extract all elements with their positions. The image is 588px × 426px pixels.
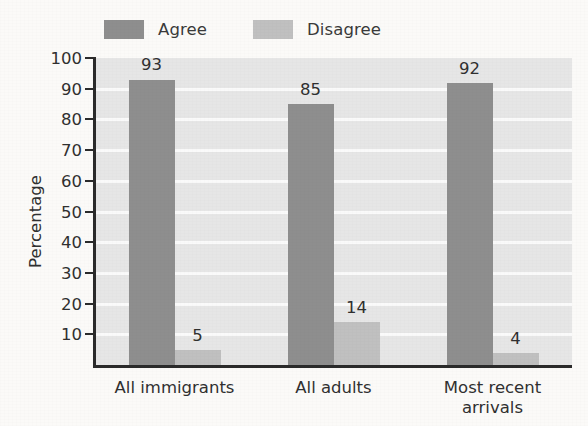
y-axis-tick — [85, 272, 94, 274]
y-axis-title: Percentage — [26, 167, 45, 277]
legend-label-disagree: Disagree — [307, 20, 381, 39]
legend-label-agree: Agree — [158, 20, 207, 39]
bar-value-label: 85 — [300, 80, 321, 99]
y-axis-tick-label: 30 — [42, 263, 82, 282]
bar-agree-0 — [129, 80, 175, 366]
bar-value-label: 92 — [459, 59, 480, 78]
y-axis-tick-label: 50 — [42, 202, 82, 221]
y-axis-tick-labels: 102030405060708090100 — [38, 0, 82, 426]
plot-area — [95, 58, 572, 365]
x-axis-category-label: All adults — [295, 378, 371, 398]
chart-legend: Agree Disagree — [104, 16, 381, 42]
bar-value-label: 14 — [346, 298, 367, 317]
y-axis-tick — [85, 57, 94, 59]
bar-disagree-0 — [175, 350, 221, 365]
x-axis-line — [93, 365, 572, 368]
bar-agree-2 — [447, 83, 493, 365]
y-axis-tick — [85, 333, 94, 335]
y-axis-tick-label: 90 — [42, 79, 82, 98]
y-axis-tick-label: 40 — [42, 233, 82, 252]
y-axis-tick — [85, 88, 94, 90]
y-axis-tick — [85, 211, 94, 213]
y-axis-tick-label: 70 — [42, 141, 82, 160]
bar-agree-1 — [288, 104, 334, 365]
y-axis-tick — [85, 241, 94, 243]
x-axis-category-label: Most recent arrivals — [444, 378, 541, 418]
legend-entry-disagree: Disagree — [253, 20, 381, 39]
bar-value-label: 5 — [192, 326, 203, 345]
y-axis-tick-label: 80 — [42, 110, 82, 129]
y-axis-tick — [85, 303, 94, 305]
legend-swatch-disagree — [253, 20, 293, 39]
y-axis-tick-label: 20 — [42, 294, 82, 313]
bar-value-label: 4 — [510, 329, 521, 348]
x-axis-category-label: All immigrants — [115, 378, 235, 398]
y-axis-tick — [85, 149, 94, 151]
y-axis-tick-label: 10 — [42, 325, 82, 344]
bar-value-label: 93 — [141, 55, 162, 74]
bar-disagree-2 — [493, 353, 539, 365]
y-axis-tick — [85, 180, 94, 182]
bar-chart-figure: Agree Disagree 102030405060708090100 Per… — [0, 0, 588, 426]
y-axis-tick-label: 60 — [42, 171, 82, 190]
y-axis-tick — [85, 118, 94, 120]
legend-entry-agree: Agree — [104, 20, 207, 39]
bar-disagree-1 — [334, 322, 380, 365]
legend-swatch-agree — [104, 20, 144, 39]
y-axis-tick-label: 100 — [42, 49, 82, 68]
